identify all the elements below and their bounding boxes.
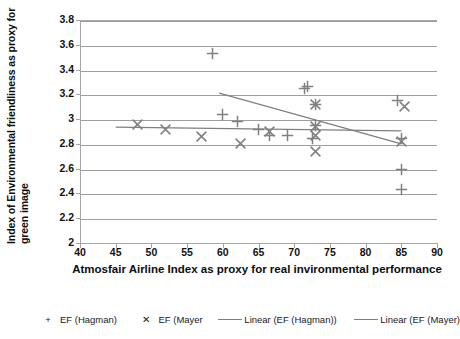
legend-label-ef-mayer: EF (Mayer: [158, 314, 202, 325]
legend-label-ef-hagman: EF (Hagman): [60, 314, 117, 325]
line-swatch-icon: [218, 319, 242, 320]
legend-label-linear-hagman: Linear (EF (Hagman)): [244, 314, 336, 325]
line-swatch-icon: [354, 319, 378, 320]
cross-marker-icon: ✕: [138, 314, 154, 325]
legend-item-ef-mayer[interactable]: ✕ EF (Mayer: [138, 314, 202, 325]
trend-line: [219, 93, 401, 144]
trend-line: [116, 127, 402, 131]
chart-legend: + EF (Hagman) ✕ EF (Mayer Linear (EF (Ha…: [40, 308, 460, 330]
trend-lines: [0, 0, 460, 339]
legend-label-linear-mayer: Linear (EF (Mayer): [380, 314, 460, 325]
chart-figure: Index of Environmental friendliness as p…: [0, 0, 460, 339]
plus-marker-icon: +: [40, 314, 56, 325]
legend-item-linear-hagman[interactable]: Linear (EF (Hagman)): [218, 314, 336, 325]
legend-item-linear-mayer[interactable]: Linear (EF (Mayer): [354, 314, 460, 325]
legend-item-ef-hagman[interactable]: + EF (Hagman): [40, 314, 117, 325]
x-axis-title: Atmosfair Airline Index as proxy for rea…: [62, 262, 452, 277]
